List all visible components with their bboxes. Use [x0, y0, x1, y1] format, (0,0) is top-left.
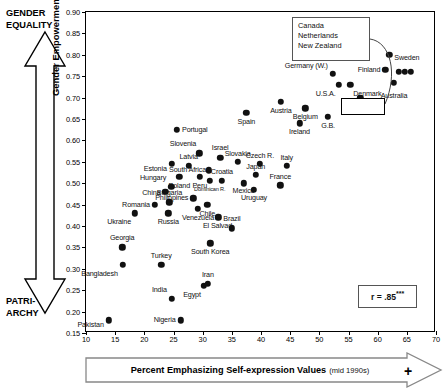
y-axis-title: Gender Empowerment Index (2000)	[50, 0, 61, 96]
patriarchy-line1: PATRI-	[6, 296, 76, 308]
data-point-label: Russia	[158, 219, 179, 226]
data-point	[158, 261, 164, 267]
correlation-significance-stars: ***	[396, 290, 404, 297]
data-point	[325, 114, 331, 120]
x-tick-label: 40	[257, 335, 265, 344]
data-point	[234, 159, 240, 165]
y-tick-label: 0.35	[66, 243, 80, 252]
data-point-label: India	[152, 286, 167, 293]
data-point	[205, 281, 211, 287]
data-point	[206, 178, 212, 184]
y-tick-label: 0.90	[66, 8, 80, 17]
data-point	[119, 244, 125, 250]
x-axis-title-sub: (mid 1990s)	[329, 366, 369, 375]
data-point-label: Italy	[280, 154, 292, 161]
plus-sign-annotation: +	[404, 363, 412, 379]
y-tick-label: 0.60	[66, 136, 80, 145]
data-point	[190, 195, 196, 201]
data-point	[330, 71, 336, 77]
data-point-label: Slovenia	[170, 141, 196, 148]
data-point-label: Egypt	[183, 291, 201, 298]
data-point	[277, 182, 283, 188]
callout-label-new-zealand: New Zealand	[298, 41, 365, 51]
data-point	[169, 296, 175, 302]
grouped-data-point	[408, 69, 414, 75]
y-tick-label: 0.25	[66, 286, 80, 295]
data-point	[215, 214, 221, 220]
y-tick-label: 0.80	[66, 50, 80, 59]
data-point-label: Sweden	[394, 54, 419, 61]
data-point-label: Ukraine	[107, 219, 131, 226]
y-tick-label: 0.15	[66, 329, 80, 338]
data-point-label: China	[142, 189, 160, 196]
y-tick-label: 0.45	[66, 200, 80, 209]
data-point-label: Estonia	[144, 165, 167, 172]
y-tick-label: 0.50	[66, 179, 80, 188]
x-tick-label: 70	[432, 335, 440, 344]
data-point	[283, 163, 289, 169]
x-tick-label: 60	[374, 335, 382, 344]
y-tick-label: 0.30	[66, 264, 80, 273]
data-point	[251, 186, 257, 192]
data-point	[382, 67, 388, 73]
data-point	[243, 109, 249, 115]
data-point-label: U.S.A.	[316, 90, 336, 97]
y-tick-label: 0.70	[66, 93, 80, 102]
data-point	[196, 150, 202, 156]
data-point-label: Portugal	[182, 126, 208, 133]
y-tick-mark	[82, 119, 86, 120]
callout-label-netherlands: Netherlands	[298, 31, 365, 41]
x-axis-title: Percent Emphasizing Self-expression Valu…	[131, 365, 327, 375]
data-point-label: France	[270, 174, 291, 181]
y-tick-mark	[82, 183, 86, 184]
y-tick-mark	[82, 226, 86, 227]
data-point	[335, 82, 341, 88]
plot-area: 0.900.850.800.750.700.650.600.550.500.45…	[86, 12, 434, 331]
data-point	[253, 171, 259, 177]
x-tick-label: 25	[169, 335, 177, 344]
data-point	[165, 210, 171, 216]
y-tick-label: 0.55	[66, 157, 80, 166]
data-point-label: Croatia	[211, 168, 233, 175]
data-point	[217, 154, 223, 160]
data-point-label: Poland	[169, 182, 190, 189]
data-point	[174, 126, 180, 132]
data-point-label: Finland	[358, 66, 381, 73]
x-tick-label: 50	[315, 335, 323, 344]
data-point-label: Turkey	[151, 252, 172, 259]
data-point-label: South Africa	[169, 167, 206, 174]
data-point	[219, 178, 225, 184]
y-tick-mark	[82, 312, 86, 313]
data-point	[386, 52, 392, 58]
y-tick-label: 0.75	[66, 72, 80, 81]
x-tick-label: 45	[286, 335, 294, 344]
correlation-value: r = .85	[371, 292, 396, 302]
callout-label-canada: Canada	[298, 21, 365, 31]
data-point	[278, 99, 284, 105]
data-point	[391, 79, 397, 85]
x-tick-label: 15	[111, 335, 119, 344]
data-point-label: Uruguay	[241, 194, 267, 201]
data-point-label: Nigeria	[154, 317, 176, 324]
data-point	[240, 180, 246, 186]
data-point-label: Japan	[246, 163, 265, 170]
y-tick-mark	[82, 140, 86, 141]
data-point-label: Austria	[270, 107, 291, 114]
plot-frame: 0.900.850.800.750.700.650.600.550.500.45…	[85, 11, 435, 332]
data-point-label: Romania	[122, 201, 150, 208]
data-point-label: El Salvad.	[203, 223, 234, 230]
y-tick-label: 0.85	[66, 29, 80, 38]
data-point-label: Bangladesh	[81, 270, 117, 277]
data-point	[302, 105, 308, 111]
data-point-label: Georgia	[110, 235, 135, 242]
grouped-points-box	[341, 98, 385, 115]
x-tick-label: 65	[403, 335, 411, 344]
data-point	[177, 317, 183, 323]
data-point-label: Spain	[238, 118, 256, 125]
callout-box: Canada Netherlands New Zealand	[292, 17, 370, 61]
data-point-label: Germany (W.)	[285, 62, 328, 69]
x-tick-label: 35	[228, 335, 236, 344]
y-tick-mark	[82, 12, 86, 13]
y-tick-mark	[82, 33, 86, 34]
data-point-label: Belgium	[293, 114, 318, 121]
